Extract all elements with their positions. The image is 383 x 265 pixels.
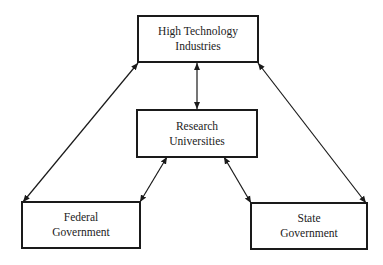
node-high-technology-industries: High Technology Industries [137,15,259,63]
arrow-research-state [224,157,251,203]
node-label-line1: High Technology [158,24,238,39]
node-federal-government: Federal Government [21,201,141,249]
arrow-research-federal [140,157,167,202]
node-label-line1: Research [176,119,218,134]
node-label-line1: State [298,211,321,226]
node-label-line1: Federal [64,210,98,225]
node-research-universities: Research Universities [136,109,258,158]
node-label-line2: Government [52,225,109,240]
node-state-government: State Government [250,202,368,250]
node-label-line2: Industries [175,39,220,54]
node-label-line2: Universities [169,134,225,149]
arrow-hightech-federal [23,63,138,202]
node-label-line2: Government [280,226,337,241]
arrow-hightech-state [258,63,366,203]
